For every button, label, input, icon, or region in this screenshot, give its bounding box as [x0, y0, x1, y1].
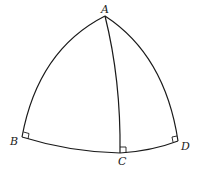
label-B: B — [9, 135, 18, 148]
arc-AB — [22, 16, 105, 137]
spherical-triangle-diagram: A B C D — [0, 0, 199, 176]
label-A: A — [100, 3, 109, 16]
arc-AC — [105, 16, 120, 153]
label-C: C — [118, 155, 127, 168]
arc-BC — [22, 137, 120, 153]
arcs — [22, 16, 178, 153]
right-angle-markers — [24, 132, 178, 153]
label-D: D — [180, 140, 190, 153]
arc-CD — [120, 141, 178, 153]
